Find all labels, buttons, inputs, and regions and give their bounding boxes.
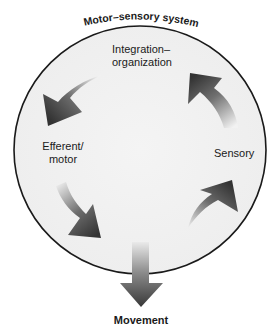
output-movement: Movement [110, 314, 172, 327]
node-integration-organization: Integration– organization [112, 43, 182, 69]
node-integration-line2: organization [112, 56, 182, 69]
node-integration-line1: Integration– [112, 43, 182, 56]
node-efferent-line2: motor [33, 153, 93, 166]
node-sensory: Sensory [214, 147, 254, 160]
node-efferent-line1: Efferent/ [33, 140, 93, 153]
node-efferent-motor: Efferent/ motor [33, 140, 93, 166]
